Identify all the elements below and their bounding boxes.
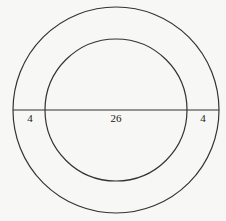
concentric-circles-diagram: 4 26 4 [0,0,226,221]
label-right-ring-width: 4 [200,112,206,124]
label-inner-diameter: 26 [111,112,123,124]
label-left-ring-width: 4 [27,112,33,124]
